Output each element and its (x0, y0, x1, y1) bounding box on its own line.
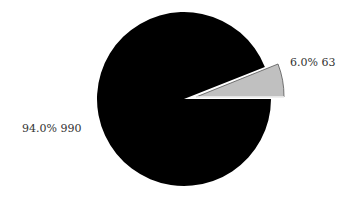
label-large-slice: 94.0% 990 (22, 122, 81, 135)
label-small-slice: 6.0% 63 (290, 56, 335, 69)
pie-slice-large (97, 12, 271, 186)
pie-chart: 6.0% 63 94.0% 990 (0, 0, 359, 200)
